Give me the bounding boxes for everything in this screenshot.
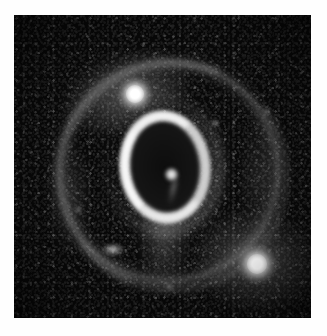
star-2-core xyxy=(126,85,144,103)
image-viewer: Grayscale astronomical image of a ring-s… xyxy=(0,0,327,336)
star-faint-left xyxy=(74,205,83,214)
inner-equatorial-ring xyxy=(114,107,215,228)
star-faint-bottom xyxy=(164,283,175,291)
star-faint-upper-right xyxy=(210,119,220,127)
star-faint-right xyxy=(262,107,271,116)
star-3-core xyxy=(247,254,267,274)
astronomical-image-frame xyxy=(14,15,311,318)
star-faint-lower-left xyxy=(102,243,124,256)
central-knot xyxy=(164,167,179,182)
